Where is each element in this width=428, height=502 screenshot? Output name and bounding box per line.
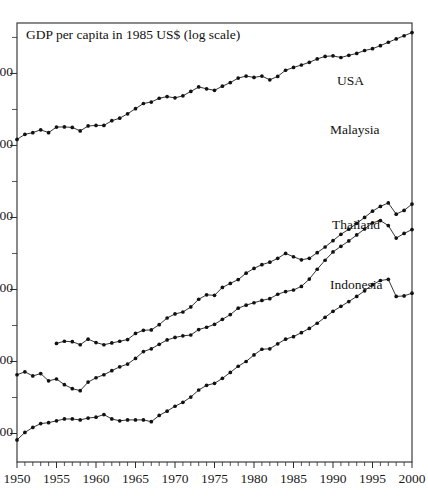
series-label-malaysia: Malaysia (330, 122, 380, 138)
x-tick-label-1985: 1985 (272, 471, 316, 487)
x-tick-label-1995: 1995 (351, 471, 395, 487)
series-label-indonesia: Indonesia (330, 277, 382, 293)
x-tick-label-1955: 1955 (35, 471, 79, 487)
x-tick-label-1975: 1975 (193, 471, 237, 487)
chart-title: GDP per capita in 1985 US$ (log scale) (26, 27, 240, 43)
x-tick-label-1965: 1965 (114, 471, 158, 487)
y-tick-label-2000: 2000 (0, 280, 13, 296)
x-tick-label-1950: 1950 (0, 471, 39, 487)
y-tick-label-16000: 16000 (0, 64, 13, 80)
data-series-group (15, 31, 414, 442)
series-label-thailand: Thailand (332, 217, 380, 233)
x-tick-label-2000: 2000 (390, 471, 428, 487)
x-tick-label-1990: 1990 (311, 471, 355, 487)
x-tick-label-1960: 1960 (74, 471, 118, 487)
y-tick-label-8000: 8000 (0, 136, 13, 152)
chart-root: GDP per capita in 1985 US$ (log scale) 5… (0, 0, 428, 502)
x-tick-label-1970: 1970 (153, 471, 197, 487)
y-tick-label-1000: 1000 (0, 352, 13, 368)
x-axis-ticks (17, 462, 412, 468)
y-tick-label-500: 500 (0, 424, 13, 440)
y-tick-label-4000: 4000 (0, 208, 13, 224)
series-indonesia (15, 277, 414, 441)
x-tick-label-1980: 1980 (232, 471, 276, 487)
series-label-usa: USA (337, 73, 364, 89)
series-thailand (15, 219, 414, 393)
